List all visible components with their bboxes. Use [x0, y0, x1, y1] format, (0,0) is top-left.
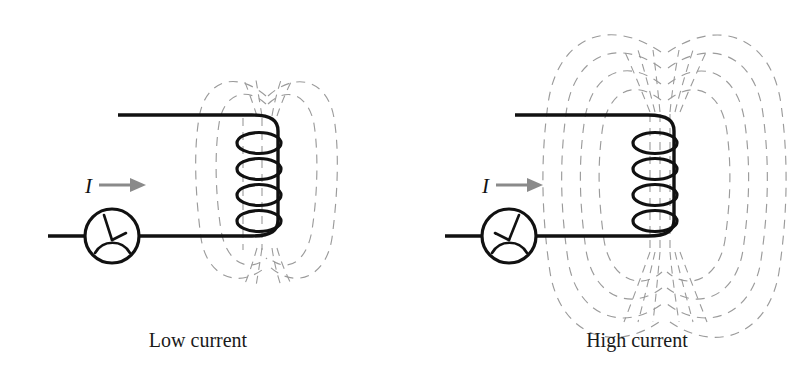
coil-low-current [237, 133, 281, 232]
coil-turn-2 [237, 159, 281, 180]
field-strand-high-bottom-b [638, 252, 655, 322]
coil-turn-high-4 [633, 211, 677, 232]
coil-turn-3 [237, 185, 281, 206]
field-strand-high-top-c [653, 50, 660, 112]
caption-high-current: High current [586, 329, 688, 352]
field-strand-high-bottom-a [624, 252, 650, 322]
physics-figure: I Low current [0, 0, 802, 386]
current-label-low: I [84, 174, 93, 198]
field-strand-top-c [272, 80, 281, 116]
current-arrow-head-high [527, 178, 543, 192]
caption-low-current: Low current [149, 329, 248, 351]
field-line-right-3 [667, 53, 767, 318]
field-strand-high-bottom-d [670, 252, 679, 322]
solenoid-field-diagram: I Low current [0, 0, 802, 386]
field-line-right-1 [667, 90, 730, 281]
current-arrow-head-low [130, 178, 146, 192]
coil-spine-top [252, 115, 278, 131]
field-strand-top-b [256, 80, 262, 116]
coil-turn-4 [237, 211, 281, 232]
panel-high-current: I High current [445, 35, 786, 352]
ammeter-high-current[interactable] [482, 209, 536, 263]
field-strand-bottom-c [272, 248, 281, 286]
current-label-high: I [481, 174, 490, 198]
panel-low-current: I Low current [48, 80, 337, 351]
coil-turn-high-2 [633, 159, 677, 180]
field-line-right-2 [667, 71, 749, 299]
field-strand-bottom-a [244, 248, 257, 286]
field-strand-high-bottom-f [680, 252, 707, 322]
current-label-group-low: I [84, 174, 146, 198]
coil-turn-high-3 [633, 185, 677, 206]
current-label-group-high: I [481, 174, 543, 198]
field-lines-low-current [196, 80, 338, 286]
ammeter-low-current[interactable] [85, 209, 139, 263]
coil-turn-1 [237, 133, 281, 154]
field-strand-high-bottom-c [653, 252, 660, 322]
field-strand-bottom-b [256, 248, 262, 286]
ammeter-body-high [482, 209, 536, 263]
field-line-right-4 [667, 35, 786, 337]
